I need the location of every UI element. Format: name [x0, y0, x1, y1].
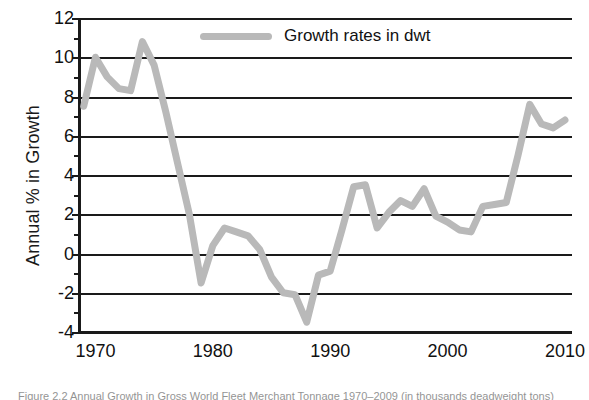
y-axis-minor-ticks — [72, 19, 79, 333]
figure-caption: Figure 2.2 Annual Growth in Gross World … — [18, 390, 563, 400]
legend: Growth rates in dwt — [200, 26, 430, 46]
legend-swatch-growth-rates-in-dwt — [200, 33, 272, 40]
data-line-growth-rates-in-dwt — [84, 42, 565, 323]
legend-label-growth-rates-in-dwt: Growth rates in dwt — [284, 26, 430, 46]
